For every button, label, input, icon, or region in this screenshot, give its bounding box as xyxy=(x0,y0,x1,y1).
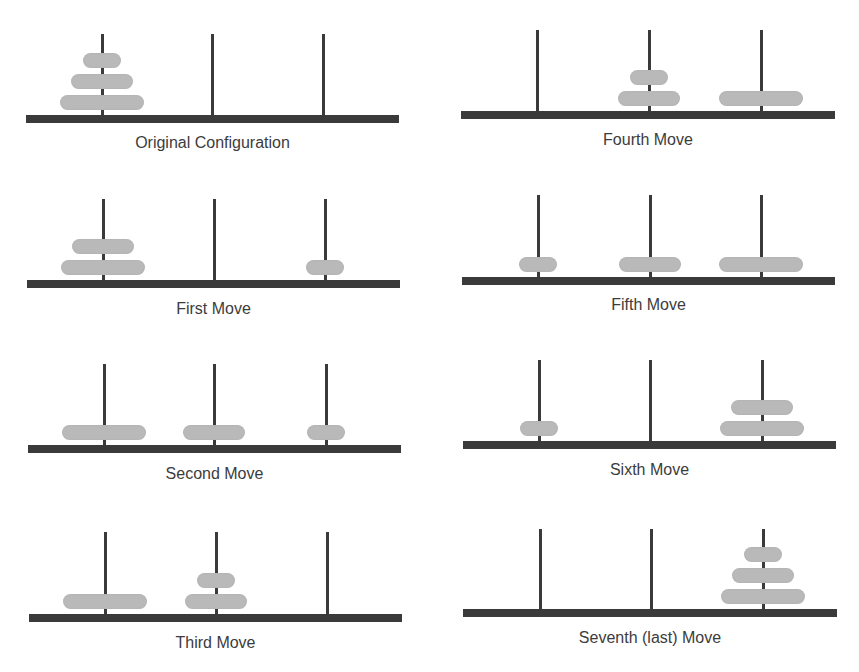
disk-small xyxy=(306,260,344,275)
panel-caption: First Move xyxy=(27,300,400,318)
disk-small xyxy=(83,53,121,68)
disk-large xyxy=(61,260,145,275)
disk-large xyxy=(63,594,147,609)
disk-medium xyxy=(732,568,794,583)
panel-caption: Fifth Move xyxy=(462,296,835,314)
panel-caption: Sixth Move xyxy=(463,461,836,479)
disk-large xyxy=(60,95,144,110)
disk-large xyxy=(719,91,803,106)
disk-small xyxy=(519,257,557,272)
panel-caption: Second Move xyxy=(28,465,401,483)
peg xyxy=(211,34,214,117)
base-platform xyxy=(26,115,399,123)
peg xyxy=(213,199,216,282)
base-platform xyxy=(463,441,836,449)
disk-small xyxy=(630,70,668,85)
panel-caption: Seventh (last) Move xyxy=(463,629,837,647)
disk-small xyxy=(307,425,345,440)
peg xyxy=(650,529,653,611)
disk-medium xyxy=(185,594,247,609)
disk-medium xyxy=(731,400,793,415)
disk-large xyxy=(62,425,146,440)
base-platform xyxy=(28,445,401,453)
disk-medium xyxy=(183,425,245,440)
disk-medium xyxy=(71,74,133,89)
disk-small xyxy=(197,573,235,588)
base-platform xyxy=(29,614,402,622)
disk-small xyxy=(744,547,782,562)
peg xyxy=(649,360,652,443)
disk-large xyxy=(720,421,804,436)
disk-medium xyxy=(72,239,134,254)
disk-large xyxy=(721,589,805,604)
base-platform xyxy=(462,277,835,285)
base-platform xyxy=(27,280,400,288)
panel-caption: Third Move xyxy=(29,634,402,652)
peg xyxy=(322,34,325,117)
peg xyxy=(536,30,539,113)
base-platform xyxy=(461,111,835,119)
disk-medium xyxy=(618,91,680,106)
disk-large xyxy=(719,257,803,272)
panel-caption: Original Configuration xyxy=(26,134,399,152)
disk-medium xyxy=(619,257,681,272)
panel-caption: Fourth Move xyxy=(461,131,835,149)
disk-small xyxy=(520,421,558,436)
base-platform xyxy=(463,609,837,617)
peg xyxy=(326,532,329,616)
peg xyxy=(539,529,542,611)
